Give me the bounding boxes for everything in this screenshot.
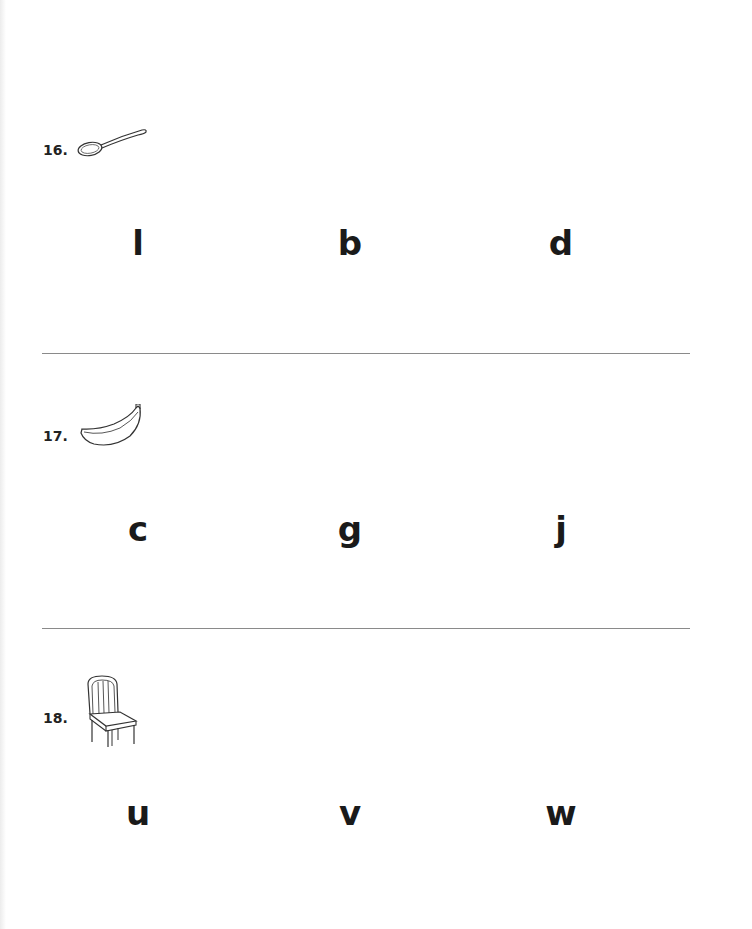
question-number: 16. [43, 142, 68, 158]
choice-letter[interactable]: b [320, 226, 380, 260]
choice-letter[interactable]: d [531, 226, 591, 260]
spoon-icon [76, 126, 148, 160]
choice-letter[interactable]: l [108, 226, 168, 260]
choice-letter[interactable]: u [108, 796, 168, 830]
question-number: 18. [43, 710, 68, 726]
choice-letter[interactable]: c [108, 512, 168, 546]
choice-letter[interactable]: v [320, 796, 380, 830]
section-divider [42, 628, 690, 629]
banana-icon [78, 404, 144, 450]
page-edge-shadow [0, 0, 6, 929]
choice-letter[interactable]: g [320, 512, 380, 546]
choice-letter[interactable]: j [531, 512, 591, 546]
question-number: 17. [43, 428, 68, 444]
chair-icon [84, 674, 140, 748]
section-divider [42, 353, 690, 354]
choice-letter[interactable]: w [531, 796, 591, 830]
